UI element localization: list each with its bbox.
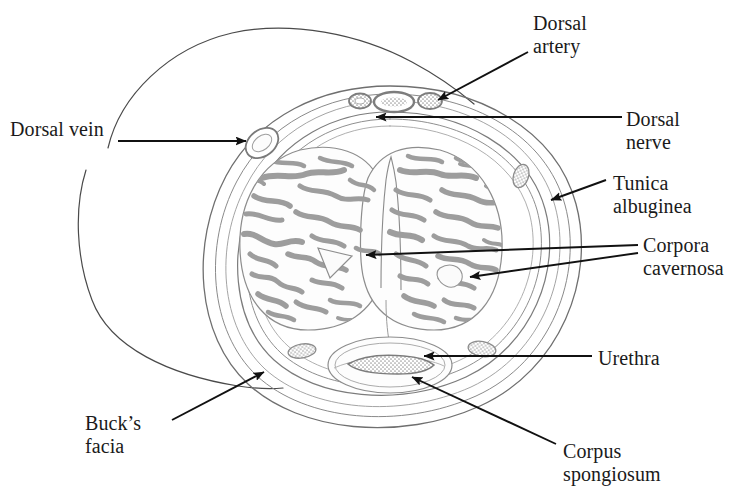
leader-tunica-albuginea — [551, 180, 606, 200]
leader-bucks-facia — [172, 372, 264, 420]
corpus-spongiosum — [328, 337, 452, 393]
label-corpora-cavernosa: Corpora cavernosa — [643, 234, 724, 280]
label-dorsal-nerve: Dorsal nerve — [626, 108, 680, 154]
dorsal-artery-lumen — [418, 93, 442, 109]
leader-dorsal-artery — [438, 52, 528, 100]
label-bucks-facia: Buck’s facia — [85, 412, 141, 458]
label-dorsal-vein: Dorsal vein — [10, 118, 104, 141]
label-corpus-spongiosum: Corpus spongiosum — [563, 440, 661, 486]
label-dorsal-artery: Dorsal artery — [533, 12, 587, 58]
anatomical-figure: Dorsal vein Dorsal artery Dorsal nerve T… — [0, 0, 740, 491]
label-tunica-albuginea: Tunica albuginea — [613, 172, 692, 218]
dorsal-vein-vessel — [240, 122, 284, 165]
dorsal-neurovascular-bundle — [349, 92, 442, 112]
label-urethra: Urethra — [598, 347, 660, 370]
